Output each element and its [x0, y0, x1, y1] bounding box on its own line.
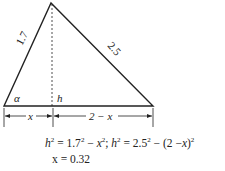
height-label: h	[57, 92, 63, 104]
triangle	[4, 3, 153, 106]
angle-label: α	[14, 92, 20, 104]
arrow-right-icon	[47, 114, 52, 118]
side-right-label: 2.5	[106, 39, 124, 58]
arrow-left-icon	[54, 114, 59, 118]
arrow-left-icon	[5, 114, 10, 118]
base-left-label: x	[27, 110, 33, 122]
equation-line-2: x = 0.32	[52, 153, 90, 165]
arrow-right-icon	[147, 114, 152, 118]
base-right-label: 2 − x	[89, 110, 112, 122]
equation-line-1: h2 = 1.72 − x2; h2 = 2.52 − (2 −x)2	[45, 136, 194, 149]
side-left-label: 1.7	[13, 29, 30, 47]
